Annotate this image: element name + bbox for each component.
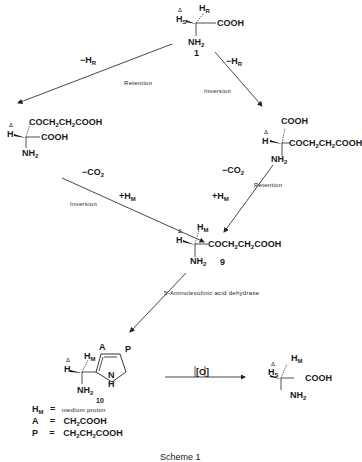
- h-s-label: HS: [176, 14, 187, 24]
- compound-number: 9: [220, 257, 225, 267]
- h-m-label: HM: [291, 353, 303, 363]
- h-label: H: [262, 136, 269, 146]
- nh2-label: NH2: [77, 385, 93, 395]
- enzyme-label: 5-Aminolevulinic acid dehydrase: [164, 288, 259, 298]
- nh2-label: NH2: [188, 37, 204, 47]
- cooh-label: COOH: [41, 132, 68, 142]
- reagent-label: +HM: [212, 191, 229, 201]
- stereo-label: Inversion: [204, 86, 231, 96]
- nh2-label: NH2: [290, 390, 306, 400]
- delta-label: Δ: [178, 228, 182, 234]
- reagent-label: −CO2: [82, 167, 104, 177]
- side-chain-label: COCH2CH2COOH: [29, 117, 102, 127]
- reagent-label: −HR: [80, 55, 96, 65]
- h-m-label: HM: [197, 222, 209, 232]
- h-label: H: [64, 364, 71, 374]
- legend-row-a: A = CH2COOH: [32, 416, 107, 426]
- a-substituent: A: [99, 342, 106, 352]
- stereo-label: Retention: [124, 78, 152, 88]
- oxidation-label: [O]: [196, 367, 209, 377]
- nh2-label: NH2: [22, 148, 38, 158]
- reagent-label: −HR: [226, 56, 242, 66]
- side-chain-label: COCH2CH2COOH: [208, 239, 281, 249]
- scheme-caption: Scheme 1: [160, 452, 201, 462]
- reagent-label: −CO2: [222, 165, 244, 175]
- reagent-label: +HM: [119, 191, 136, 201]
- cooh-label: COOH: [217, 18, 244, 28]
- legend-row-p: P = CH2CH2COOH: [32, 428, 123, 438]
- arrow-mid-left: [62, 178, 204, 242]
- nh-h-label: H: [108, 379, 115, 389]
- cooh-label: COOH: [281, 116, 308, 126]
- arrow-mid-right: [224, 165, 273, 232]
- arrow-top-left: [18, 44, 172, 103]
- nh2-label: NH2: [190, 256, 206, 266]
- delta-label: Δ: [9, 122, 13, 128]
- h-m-label: HM: [84, 351, 96, 361]
- nh2-label: NH2: [271, 154, 287, 164]
- h-r-label: HR: [199, 3, 210, 13]
- legend-row-hm: HM = medium proton: [32, 404, 106, 415]
- delta-label: Δ: [264, 129, 268, 135]
- delta-label: Δ: [66, 357, 70, 363]
- delta-label: Δ: [178, 7, 182, 13]
- arrow-enzyme: [130, 273, 186, 332]
- compound-number: 1: [194, 48, 199, 58]
- h-label: H: [176, 235, 183, 245]
- cooh-label: COOH: [305, 373, 332, 383]
- side-chain-label: COCH2CH2COOH: [289, 138, 362, 148]
- stereo-label: Inversion: [70, 199, 97, 209]
- stereo-label: Retention: [254, 180, 282, 190]
- h-s-label: HS: [268, 367, 279, 377]
- h-label: H: [7, 129, 14, 139]
- p-substituent: P: [125, 344, 131, 354]
